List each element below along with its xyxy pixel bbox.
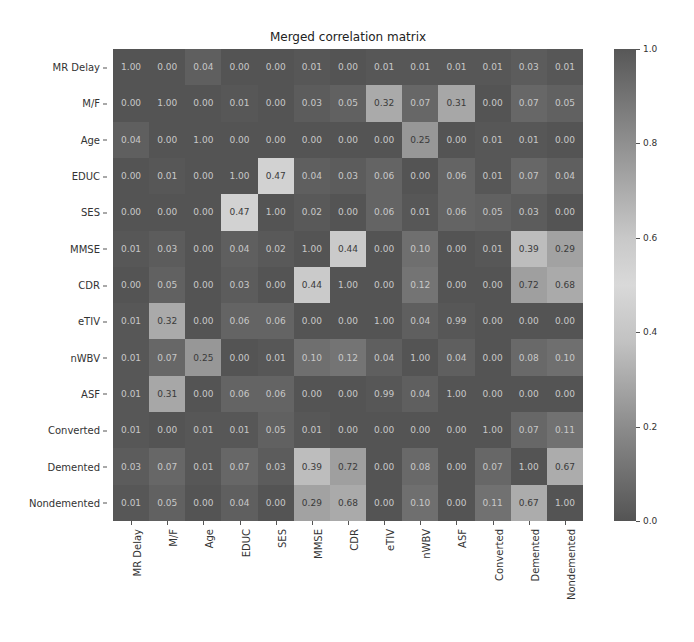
x-tick-mark — [384, 521, 385, 525]
y-tick-label: MMSE — [70, 243, 107, 254]
heatmap-cell: 0.07 — [475, 448, 511, 484]
heatmap-cell: 0.00 — [475, 339, 511, 375]
heatmap-cell: 0.04 — [294, 158, 330, 194]
heatmap-cell: 0.06 — [438, 158, 474, 194]
colorbar — [614, 49, 636, 521]
heatmap-cell: 0.10 — [547, 339, 583, 375]
heatmap-cell: 0.00 — [438, 231, 474, 267]
heatmap-cell: 0.00 — [149, 194, 185, 230]
heatmap-cell: 0.00 — [438, 122, 474, 158]
x-tick-mark — [529, 521, 530, 525]
heatmap-cell: 0.01 — [185, 448, 221, 484]
heatmap-cell: 0.29 — [294, 485, 330, 521]
heatmap-cell: 0.01 — [475, 231, 511, 267]
x-tick-label: M/F — [168, 529, 179, 547]
heatmap-cell: 0.00 — [185, 158, 221, 194]
heatmap-cell: 0.01 — [221, 412, 257, 448]
heatmap-cell: 0.00 — [294, 303, 330, 339]
heatmap-cell: 0.01 — [149, 158, 185, 194]
heatmap-cell: 0.04 — [402, 376, 438, 412]
x-tick-mark — [565, 521, 566, 525]
heatmap-cell: 0.00 — [330, 303, 366, 339]
heatmap-cell: 0.01 — [438, 49, 474, 85]
heatmap-cell: 0.01 — [366, 49, 402, 85]
heatmap-cell: 0.06 — [438, 194, 474, 230]
heatmap-cell: 0.07 — [511, 412, 547, 448]
heatmap-cell: 0.12 — [330, 339, 366, 375]
heatmap-cell: 0.07 — [149, 339, 185, 375]
heatmap-cell: 0.10 — [294, 339, 330, 375]
heatmap-cell: 1.00 — [258, 194, 294, 230]
x-tick-label: SES — [276, 529, 287, 548]
heatmap-cell: 0.05 — [330, 85, 366, 121]
colorbar-tick-label: 0.6 — [636, 233, 657, 243]
heatmap-cell: 0.00 — [185, 194, 221, 230]
heatmap-cell: 0.00 — [402, 158, 438, 194]
heatmap-cell: 0.47 — [258, 158, 294, 194]
heatmap-cell: 0.04 — [402, 303, 438, 339]
chart-title: Merged correlation matrix — [113, 30, 583, 44]
heatmap-cell: 0.00 — [366, 485, 402, 521]
x-tick-label: MR Delay — [132, 529, 143, 576]
colorbar-tick-label: 0.2 — [636, 422, 657, 432]
heatmap-cell: 0.25 — [185, 339, 221, 375]
heatmap-cell: 0.00 — [330, 194, 366, 230]
x-tick-mark — [493, 521, 494, 525]
heatmap-cell: 0.00 — [221, 49, 257, 85]
heatmap-cell: 0.39 — [294, 448, 330, 484]
heatmap-cell: 0.00 — [221, 122, 257, 158]
heatmap-cell: 0.00 — [185, 267, 221, 303]
heatmap-cell: 0.00 — [547, 376, 583, 412]
x-tick-label: Demented — [529, 529, 540, 582]
heatmap-cell: 0.05 — [149, 267, 185, 303]
heatmap-cell: 0.02 — [294, 194, 330, 230]
heatmap-cell: 0.72 — [330, 448, 366, 484]
heatmap-cell: 0.04 — [221, 485, 257, 521]
heatmap-cell: 0.06 — [221, 303, 257, 339]
x-tick-label: Converted — [493, 529, 504, 581]
heatmap-cell: 0.03 — [149, 231, 185, 267]
correlation-heatmap: 1.000.000.040.000.000.010.000.010.010.01… — [113, 49, 583, 521]
heatmap-cell: 0.00 — [149, 122, 185, 158]
heatmap-cell: 0.02 — [258, 231, 294, 267]
heatmap-cell: 0.00 — [547, 122, 583, 158]
x-tick-label: nWBV — [421, 529, 432, 559]
heatmap-cell: 0.32 — [149, 303, 185, 339]
x-tick-label: CDR — [349, 529, 360, 551]
heatmap-cell: 0.07 — [402, 85, 438, 121]
heatmap-cell: 0.03 — [258, 448, 294, 484]
heatmap-cell: 0.01 — [258, 339, 294, 375]
heatmap-cell: 0.00 — [149, 412, 185, 448]
heatmap-cell: 0.00 — [185, 376, 221, 412]
heatmap-cell: 0.00 — [258, 485, 294, 521]
colorbar-tick-label: 0.4 — [636, 327, 657, 337]
x-tick-label: eTIV — [385, 529, 396, 551]
heatmap-cell: 0.00 — [330, 49, 366, 85]
heatmap-cell: 0.00 — [438, 448, 474, 484]
heatmap-cell: 0.00 — [330, 376, 366, 412]
heatmap-cell: 0.00 — [258, 267, 294, 303]
heatmap-cell: 0.01 — [402, 194, 438, 230]
heatmap-cell: 0.00 — [149, 49, 185, 85]
heatmap-cell: 1.00 — [185, 122, 221, 158]
x-tick-mark — [203, 521, 204, 525]
heatmap-cell: 0.44 — [294, 267, 330, 303]
heatmap-cell: 0.68 — [547, 267, 583, 303]
y-tick-label: Demented — [47, 461, 107, 472]
x-tick-mark — [420, 521, 421, 525]
colorbar-tick-label: 0.8 — [636, 138, 657, 148]
heatmap-cell: 0.00 — [113, 158, 149, 194]
heatmap-cell: 0.11 — [475, 485, 511, 521]
x-axis-labels: MR DelayM/FAgeEDUCSESMMSECDReTIVnWBVASFC… — [113, 521, 583, 631]
heatmap-cell: 0.00 — [511, 303, 547, 339]
heatmap-cell: 0.01 — [402, 49, 438, 85]
heatmap-cell: 0.01 — [113, 303, 149, 339]
heatmap-cell: 0.67 — [511, 485, 547, 521]
x-tick-mark — [312, 521, 313, 525]
heatmap-cell: 0.07 — [511, 85, 547, 121]
y-axis-labels: MR DelayM/FAgeEDUCSESMMSECDReTIVnWBVASFC… — [0, 49, 107, 521]
x-tick-label: Nondemented — [565, 529, 576, 600]
heatmap-cell: 0.00 — [366, 448, 402, 484]
heatmap-cell: 1.00 — [402, 339, 438, 375]
x-tick-mark — [240, 521, 241, 525]
